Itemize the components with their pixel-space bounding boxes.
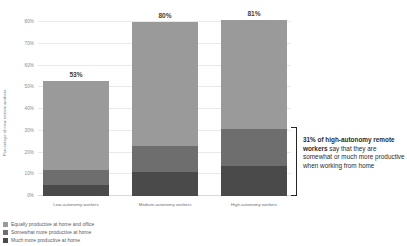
y-tick-label: 80% [25, 19, 35, 24]
bar-segment-much-more[interactable] [132, 172, 198, 196]
bar-total-label: 80% [158, 12, 171, 19]
y-tick-label: 40% [25, 106, 35, 111]
bar-total-label: 81% [247, 10, 260, 17]
legend-label: Somewhat more productive at home [11, 229, 91, 235]
legend-item-much-more[interactable]: Much more productive at home [3, 236, 94, 244]
y-tick-label: 20% [25, 149, 35, 154]
bar-group-medium-autonomy[interactable]: 80% Medium-autonomy workers [132, 22, 198, 196]
bar-group-low-autonomy[interactable]: 53% Low-autonomy workers [43, 81, 109, 196]
legend-label: Much more productive at home [11, 237, 80, 243]
y-tick-label: 0% [27, 193, 34, 198]
legend-item-equally[interactable]: Equally productive at home and office [3, 220, 94, 228]
category-label-medium-autonomy: Medium-autonomy workers [139, 202, 192, 207]
legend-label: Equally productive at home and office [11, 221, 94, 227]
callout-annotation: 31% of high-autonomy remote workers say … [303, 136, 407, 170]
bar-group-high-autonomy[interactable]: 81% High-autonomy workers [221, 20, 287, 196]
callout-bracket [291, 127, 297, 196]
y-tick-label: 60% [25, 62, 35, 67]
legend-swatch-icon [3, 238, 8, 243]
y-tick-label: 50% [25, 84, 35, 89]
bar-segment-much-more[interactable] [43, 185, 109, 196]
stacked-bar-chart: Percentage of new remote workers 80% 70%… [0, 0, 407, 246]
legend-swatch-icon [3, 230, 8, 235]
category-label-low-autonomy: Low-autonomy workers [53, 202, 98, 207]
y-tick-label: 70% [25, 40, 35, 45]
bar-segment-equally[interactable] [43, 81, 109, 170]
legend-swatch-icon [3, 222, 8, 227]
bar-segment-much-more[interactable] [221, 166, 287, 196]
legend: Equally productive at home and office So… [3, 220, 94, 244]
bar-segment-somewhat-more[interactable] [132, 146, 198, 172]
y-tick-label: 30% [25, 127, 35, 132]
bar-segment-somewhat-more[interactable] [221, 129, 287, 166]
legend-item-somewhat-more[interactable]: Somewhat more productive at home [3, 228, 94, 236]
category-label-high-autonomy: High-autonomy workers [231, 202, 277, 207]
bar-total-label: 53% [69, 71, 82, 78]
y-axis-title: Percentage of new remote workers [2, 48, 7, 198]
y-tick-label: 10% [25, 171, 35, 176]
plot-area: 80% 70% 60% 50% 40% 30% 20% 10% 0% [38, 22, 291, 196]
bar-segment-equally[interactable] [132, 22, 198, 146]
bar-segment-equally[interactable] [221, 20, 287, 129]
bar-segment-somewhat-more[interactable] [43, 170, 109, 185]
